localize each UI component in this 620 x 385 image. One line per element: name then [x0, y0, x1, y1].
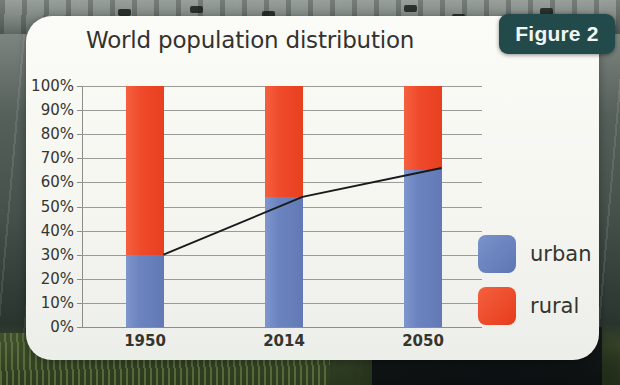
chart-legend: urbanrural: [478, 228, 591, 332]
y-axis-tick: [77, 207, 82, 208]
y-axis-tick-label: 10%: [41, 294, 74, 312]
y-axis-tick-label: 80%: [41, 125, 74, 143]
background-car: [404, 5, 417, 12]
legend-item: rural: [478, 280, 591, 332]
y-axis-tick: [77, 86, 82, 87]
y-axis-tick: [77, 110, 82, 111]
background-car: [118, 9, 131, 16]
y-axis-tick: [77, 134, 82, 135]
screenshot-stage: Figure 2 World population distribution 1…: [0, 0, 620, 385]
y-axis-tick-label: 90%: [41, 101, 74, 119]
y-axis-tick: [77, 279, 82, 280]
y-axis-tick: [77, 182, 82, 183]
y-axis-labels: 100%90%80%70%60%50%40%30%20%10%0%: [12, 86, 74, 327]
y-axis-tick-label: 30%: [41, 246, 74, 264]
y-axis-tick-label: 20%: [41, 270, 74, 288]
figure-badge-label: Figure 2: [515, 22, 598, 46]
plot-area: [82, 86, 482, 327]
y-axis-tick: [77, 255, 82, 256]
bar-segment-rural: [126, 86, 164, 255]
legend-label-urban: urban: [530, 242, 591, 266]
y-axis-tick: [77, 303, 82, 304]
gridline: [82, 327, 482, 328]
y-axis-tick-label: 60%: [41, 173, 74, 191]
stacked-bar: [404, 86, 442, 327]
legend-label-rural: rural: [530, 294, 579, 318]
x-axis-tick-label: 2050: [402, 332, 444, 350]
bar-segment-rural: [265, 86, 303, 197]
y-axis-tick: [77, 327, 82, 328]
legend-item: urban: [478, 228, 591, 280]
y-axis-tick-label: 50%: [41, 198, 74, 216]
x-axis-tick-label: 2014: [263, 332, 305, 350]
x-axis-tick-label: 1950: [124, 332, 166, 350]
background-car: [190, 6, 203, 13]
x-axis-labels: 195020142050: [82, 332, 482, 356]
chart-title: World population distribution: [86, 27, 414, 53]
y-axis-tick-label: 100%: [31, 77, 74, 95]
bar-segment-rural: [404, 86, 442, 170]
y-axis-tick-label: 70%: [41, 149, 74, 167]
bar-segment-urban: [404, 170, 442, 327]
bar-segment-urban: [126, 255, 164, 327]
y-axis-tick-label: 0%: [50, 318, 74, 336]
legend-swatch-rural: [478, 287, 516, 325]
stacked-bar: [126, 86, 164, 327]
y-axis-tick-label: 40%: [41, 222, 74, 240]
legend-swatch-urban: [478, 235, 516, 273]
figure-badge: Figure 2: [499, 14, 615, 54]
bar-segment-urban: [265, 197, 303, 327]
y-axis-tick: [77, 231, 82, 232]
y-axis-tick: [77, 158, 82, 159]
stacked-bar: [265, 86, 303, 327]
